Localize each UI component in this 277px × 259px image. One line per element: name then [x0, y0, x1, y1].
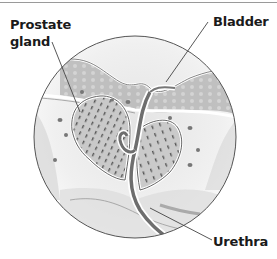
label-urethra: Urethra [213, 233, 268, 250]
label-bladder: Bladder [213, 13, 269, 30]
label-prostate-gland: Prostate gland [10, 16, 80, 50]
circle-view [30, 30, 245, 250]
